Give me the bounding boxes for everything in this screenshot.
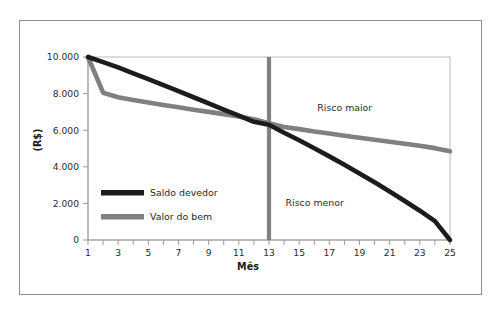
y-tick-label: 6.000 xyxy=(53,125,79,136)
legend-label-valor-do-bem: Valor do bem xyxy=(150,211,212,222)
x-tick-label: 9 xyxy=(206,247,212,258)
legend-swatch-valor-do-bem xyxy=(101,214,144,220)
x-axis-ticks: 135791113151719212325 xyxy=(85,240,456,258)
y-tick-label: 10.000 xyxy=(47,51,79,62)
x-tick-label: 7 xyxy=(176,247,182,258)
figure-container: 02.0004.0006.0008.00010.000 135791113151… xyxy=(0,0,501,315)
y-tick-label: 0 xyxy=(73,234,79,245)
legend-label-saldo-devedor: Saldo devedor xyxy=(150,187,218,198)
x-tick-label: 23 xyxy=(414,247,426,258)
x-tick-label: 25 xyxy=(444,247,456,258)
annotation-risco-menor: Risco menor xyxy=(286,197,344,208)
x-tick-label: 15 xyxy=(293,247,305,258)
y-tick-label: 8.000 xyxy=(53,88,79,99)
y-axis-ticks: 02.0004.0006.0008.00010.000 xyxy=(47,51,88,245)
y-tick-label: 2.000 xyxy=(53,198,79,209)
x-tick-label: 11 xyxy=(233,247,245,258)
annotation-risco-maior: Risco maior xyxy=(317,102,372,113)
x-tick-label: 13 xyxy=(263,247,275,258)
y-tick-label: 4.000 xyxy=(53,161,79,172)
line-chart: 02.0004.0006.0008.00010.000 135791113151… xyxy=(0,0,501,315)
x-tick-label: 17 xyxy=(323,247,335,258)
x-tick-label: 1 xyxy=(85,247,91,258)
x-tick-label: 3 xyxy=(115,247,121,258)
x-tick-label: 5 xyxy=(145,247,151,258)
x-axis-title: Mês xyxy=(237,261,259,272)
x-tick-label: 21 xyxy=(384,247,396,258)
y-axis-title: (R$) xyxy=(32,129,43,152)
legend-swatch-saldo-devedor xyxy=(101,190,144,196)
x-tick-label: 19 xyxy=(354,247,366,258)
